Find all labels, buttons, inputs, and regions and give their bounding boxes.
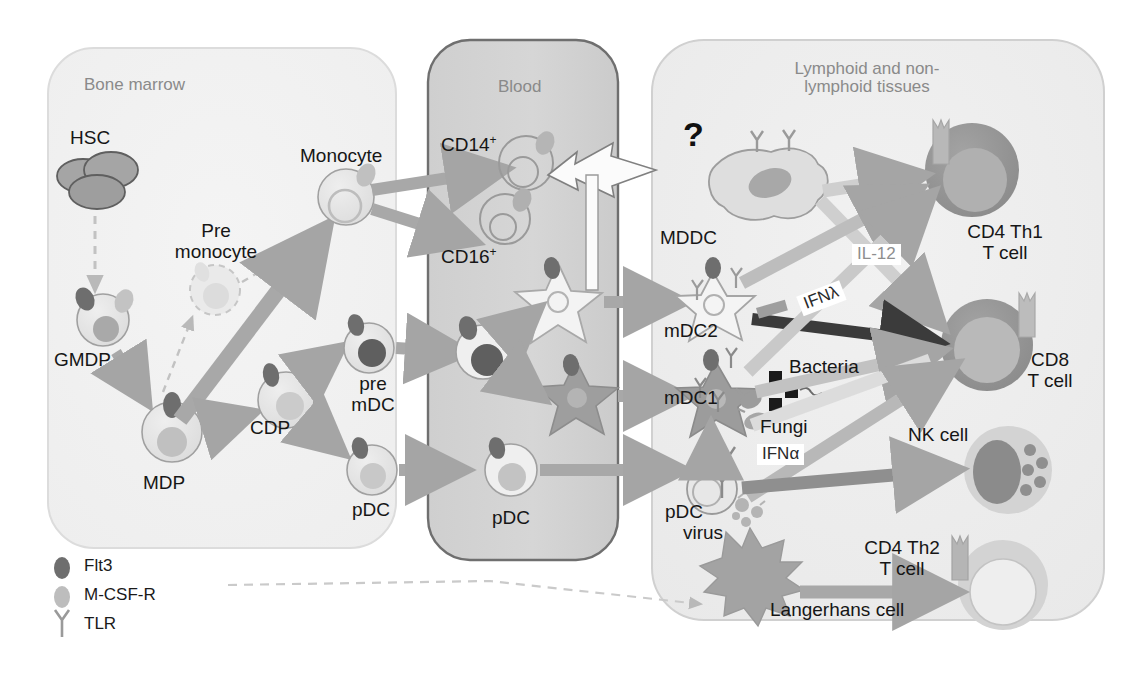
label-cd14-monocyte: CD14+ (441, 134, 497, 156)
label-blood-pdc: pDC (492, 508, 530, 529)
label-cdp: CDP (250, 418, 290, 439)
arrow-premdc-to-blood (396, 348, 460, 352)
legend-glyph-flt3 (54, 557, 70, 579)
label-gmdp: GMDP (54, 350, 111, 371)
tcr-icon-cd8 (1019, 293, 1035, 337)
panel-title-blood: Blood (498, 78, 541, 96)
label-hsc: HSC (70, 128, 110, 149)
legend-label-tlr: TLR (84, 615, 116, 633)
tcr-icon-th2 (952, 536, 968, 580)
label-langerhans: Langerhans cell (770, 600, 904, 621)
legend-glyph-mcsfr (54, 586, 70, 608)
label-pdc-virus: pDC virus (665, 502, 723, 543)
unknown-origin-marker: ? (683, 116, 704, 153)
legend-label-mcsfr: M-CSF-R (84, 586, 156, 604)
panel-title-tissues: Lymphoid and non- lymphoid tissues (772, 60, 962, 97)
label-bacteria: Bacteria (789, 357, 859, 378)
label-nk-cell: NK cell (908, 425, 968, 446)
legend-glyph-tlr (55, 610, 69, 637)
diagram-graphics (0, 0, 1137, 683)
label-cd8: CD8 T cell (1010, 350, 1090, 391)
legend-label-flt3: Flt3 (84, 557, 112, 575)
tcr-icon-th1 (933, 120, 949, 164)
dashed-langerhans-path (228, 581, 700, 604)
figure-canvas: Bone marrow Blood Lymphoid and non- lymp… (0, 0, 1137, 683)
label-monocyte: Monocyte (300, 146, 382, 167)
label-mdp: MDP (143, 473, 185, 494)
label-ifn-alpha: IFNα (757, 444, 804, 465)
label-mdc1: mDC1 (664, 388, 718, 409)
label-cd16-monocyte: CD16+ (441, 246, 497, 268)
label-pre-monocyte: Pre monocyte (166, 221, 266, 262)
label-cd4-th1: CD4 Th1 T cell (950, 222, 1060, 263)
label-mdc2: mDC2 (664, 321, 718, 342)
label-mddc: MDDC (660, 228, 717, 249)
label-pre-mdc: pre mDC (347, 374, 399, 415)
label-pdc-bm: pDC (352, 500, 390, 521)
cell-nk (964, 426, 1052, 514)
label-fungi: Fungi (760, 417, 808, 438)
arrow-white-vertical (586, 175, 598, 290)
label-il12: IL-12 (852, 244, 901, 265)
label-cd4-th2: CD4 Th2 T cell (852, 538, 952, 579)
panel-title-bone-marrow: Bone marrow (84, 76, 185, 94)
